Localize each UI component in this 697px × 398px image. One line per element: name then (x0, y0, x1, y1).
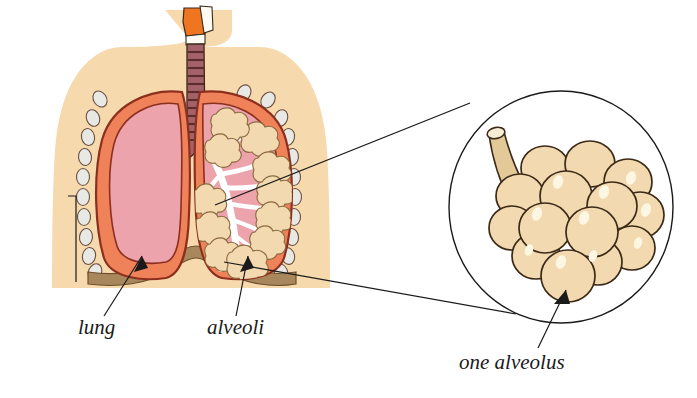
label-alveoli: alveoli (207, 315, 264, 339)
magnifier-circle (449, 91, 673, 323)
label-one-alveolus: one alveolus (459, 350, 565, 374)
diagram-canvas: lung alveoli one alveolus (0, 0, 697, 398)
lung-diagram: lung alveoli one alveolus (0, 0, 697, 398)
label-lung: lung (78, 315, 115, 339)
